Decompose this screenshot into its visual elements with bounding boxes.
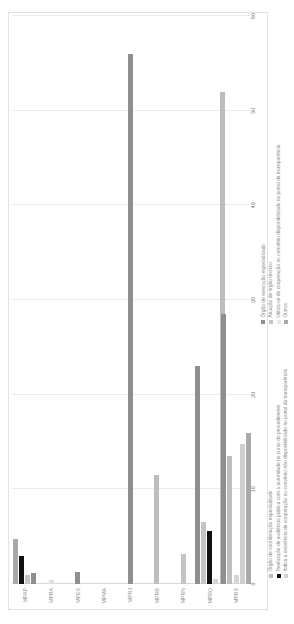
legend-item[interactable]: Órgão de execução especializado	[260, 144, 268, 324]
category-label: MPRS	[233, 588, 239, 618]
legend-swatch-icon	[269, 320, 273, 324]
bar	[240, 444, 245, 584]
x-tick-label: 0	[250, 583, 256, 586]
legend-swatch-icon	[284, 574, 288, 578]
legend-item[interactable]: Atuação de órgão técnico	[267, 144, 275, 324]
category-label: MPAP	[22, 588, 28, 618]
bar	[227, 456, 232, 584]
bar	[31, 573, 36, 584]
bar	[234, 575, 239, 584]
bar-group: MPRJ	[118, 16, 144, 584]
x-tick-label: 30	[250, 297, 256, 303]
legend-label: Indica a existência de cooperação ou con…	[282, 369, 290, 572]
legend-label: Realização de audiência pública com a au…	[275, 404, 283, 571]
bar	[75, 572, 80, 584]
legend-item[interactable]: Outros	[282, 144, 290, 324]
bar	[213, 579, 218, 584]
legend-swatch-icon	[269, 574, 273, 578]
legend-item[interactable]: Realização de audiência pública com a au…	[275, 369, 283, 578]
x-tick-label: 60	[250, 13, 256, 19]
legend-label: Órgão de execução especializado	[260, 244, 268, 318]
legend-swatch-icon	[277, 320, 281, 324]
bar	[19, 556, 24, 584]
legend-item[interactable]: Órgão de coordenação especializado	[267, 369, 275, 578]
category-label: MPES	[75, 588, 81, 618]
x-tick-label: 10	[250, 486, 256, 492]
legend-label: Outros	[282, 303, 290, 318]
legend-item[interactable]: Indica a existência de cooperação ou con…	[282, 369, 290, 578]
bar-group: MPAP	[12, 16, 38, 584]
category-label: MPMA	[101, 588, 107, 618]
figure-frame: MPAPMPBAMPESMPMAMPRJMPRRMPRNMPROMPRS 010…	[0, 0, 294, 624]
category-label: MPRO	[207, 588, 213, 618]
legend-swatch-icon	[284, 320, 288, 324]
plot-area: MPAPMPBAMPESMPMAMPRJMPRRMPRNMPROMPRS 010…	[12, 16, 250, 584]
legend-primary: Órgão de coordenação especializadoRealiz…	[267, 369, 290, 578]
bar	[195, 366, 200, 584]
legend-label: Órgão de coordenação especializado	[267, 491, 275, 572]
bar	[13, 539, 18, 584]
bar-group: MPBA	[38, 16, 64, 584]
legend-secondary: Órgão de execução especializadoAtuação d…	[260, 144, 290, 324]
bar	[221, 314, 226, 584]
legend-item[interactable]: Utiliza-se de cooperação ou convênio dis…	[275, 144, 283, 324]
bar	[181, 554, 186, 584]
bar-group: MPMA	[91, 16, 117, 584]
bar	[154, 475, 159, 584]
x-tick-label: 50	[250, 108, 256, 114]
x-tick-label: 20	[250, 392, 256, 398]
category-label: MPRN	[180, 588, 186, 618]
bar-group: MPRR	[144, 16, 170, 584]
category-label: MPBA	[48, 588, 54, 618]
bar	[201, 522, 206, 584]
legend-swatch-icon	[261, 320, 265, 324]
legend-swatch-icon	[277, 574, 281, 578]
bar-group: MPRS	[224, 16, 250, 584]
rotated-chart-canvas: MPAPMPBAMPESMPMAMPRJMPRRMPRNMPROMPRS 010…	[0, 0, 294, 624]
bar-group: MPRO	[197, 16, 223, 584]
category-label: MPRJ	[127, 588, 133, 618]
bar	[49, 580, 54, 584]
bar	[128, 54, 133, 584]
bar-group: MPES	[65, 16, 91, 584]
legend-label: Atuação de órgão técnico	[267, 262, 275, 317]
bar-group: MPRN	[171, 16, 197, 584]
x-tick-label: 40	[250, 202, 256, 208]
category-label: MPRR	[154, 588, 160, 618]
legend-label: Utiliza-se de cooperação ou convênio dis…	[275, 144, 283, 317]
bar	[207, 531, 212, 584]
bar	[25, 575, 30, 584]
plot-outer: MPAPMPBAMPESMPMAMPRJMPRRMPRNMPROMPRS 010…	[0, 0, 294, 624]
